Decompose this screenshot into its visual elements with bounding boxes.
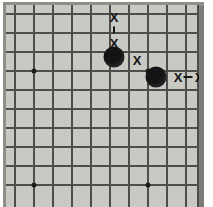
connector-vertical-top	[113, 27, 115, 34]
grid-line-vertical-7	[147, 5, 149, 207]
grid-line-horizontal-4	[6, 89, 199, 91]
black-stone-2[interactable]	[146, 67, 167, 88]
hoshi-right-lower	[146, 183, 151, 188]
grid-line-horizontal-7	[6, 146, 199, 148]
grid-line-horizontal-1	[6, 32, 199, 34]
grid-line-vertical-0	[14, 5, 16, 207]
mark-x-top-lower: X	[110, 37, 119, 50]
grid-line-vertical-10	[197, 5, 199, 207]
connector-horizontal-right	[184, 76, 193, 78]
grid-line-vertical-6	[128, 5, 130, 207]
grid-line-vertical-4	[90, 5, 92, 207]
grid-line-vertical-3	[71, 5, 73, 207]
hoshi-left-lower	[32, 183, 37, 188]
mark-x-right-1: X	[174, 71, 183, 84]
board-playing-surface: XXXXX	[6, 5, 199, 207]
grid-line-vertical-2	[52, 5, 54, 207]
hoshi-left-upper	[32, 69, 37, 74]
grid-line-horizontal-5	[6, 108, 199, 110]
grid-line-horizontal-6	[6, 127, 199, 129]
grid-line-vertical-8	[166, 5, 168, 207]
mark-x-right-of-stone-1: X	[133, 54, 142, 67]
go-board-diagram: XXXXX	[0, 0, 213, 207]
mark-x-top-upper: X	[110, 11, 119, 24]
grid-line-horizontal-8	[6, 165, 199, 167]
mark-x-right-2: X	[195, 71, 199, 84]
grid-line-vertical-9	[185, 5, 187, 207]
grid-line-vertical-1	[33, 5, 35, 207]
grid-line-horizontal-0	[6, 13, 199, 15]
grid-line-horizontal-2	[6, 51, 199, 53]
